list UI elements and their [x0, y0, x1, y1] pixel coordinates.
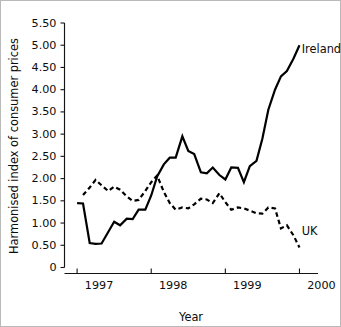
y-axis-title: Harmonised index of consumer prices: [7, 38, 21, 254]
series-label-uk: UK: [302, 224, 318, 238]
y-axis-ticklabels: 00.501.001.502.002.503.003.504.004.505.0…: [32, 17, 57, 275]
y-tick-label: 1.50: [32, 194, 57, 207]
x-tick-label: 1997: [85, 279, 113, 292]
line-chart-svg: 00.501.001.502.002.503.003.504.004.505.0…: [1, 1, 341, 327]
series-label-ireland: Ireland: [302, 42, 341, 56]
y-tick-label: 0.50: [32, 239, 57, 252]
y-tick-label: 2.50: [32, 150, 57, 163]
x-tick-label: 2000: [307, 279, 335, 292]
x-tick-label: 1998: [159, 279, 187, 292]
x-axis-tickmarks: [77, 269, 299, 274]
y-tick-label: 3.00: [32, 128, 57, 141]
y-tick-label: 3.50: [32, 105, 57, 118]
series-line-ireland: [77, 45, 299, 244]
y-tick-label: 2.00: [32, 172, 57, 185]
x-tick-label: 1999: [233, 279, 261, 292]
y-tick-label: 4.50: [32, 61, 57, 74]
series-line-uk: [83, 175, 299, 247]
chart-container: 00.501.001.502.002.503.003.504.004.505.0…: [1, 1, 341, 327]
x-axis-ticklabels: 1997199819992000: [85, 279, 336, 292]
figure-frame: 00.501.001.502.002.503.003.504.004.505.0…: [0, 0, 341, 327]
y-tick-label: 4.00: [32, 83, 57, 96]
y-tick-label: 1.00: [32, 217, 57, 230]
y-tick-label: 5.50: [32, 17, 57, 30]
y-tick-label: 0: [49, 261, 56, 274]
y-tick-label: 5.00: [32, 39, 57, 52]
y-axis-tickmarks: [61, 23, 65, 268]
x-axis-title: Year: [178, 310, 203, 324]
